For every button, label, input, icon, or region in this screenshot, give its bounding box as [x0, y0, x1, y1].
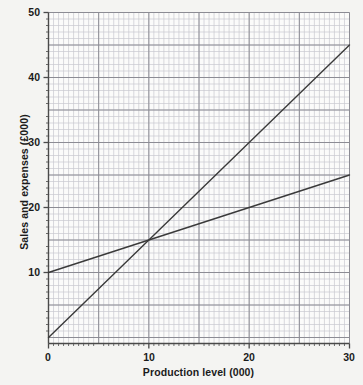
x-axis-tick-label-20: 20 [234, 351, 264, 363]
x-axis-tick-label-10: 10 [134, 351, 164, 363]
chart-figure: 50 40 30 20 10 0 10 20 30 Sales and expe… [0, 0, 363, 385]
y-axis-title: Sales and expenses (£000) [18, 102, 30, 262]
y-axis-tick-label-50: 50 [8, 6, 40, 18]
x-axis-tick-label-0: 0 [33, 351, 63, 363]
y-axis-tick-label-10: 10 [8, 266, 40, 278]
x-axis-title: Production level (000) [48, 366, 349, 378]
x-axis-tick-label-30: 30 [334, 351, 363, 363]
chart-plot-area [0, 0, 363, 385]
y-axis-tick-label-40: 40 [8, 71, 40, 83]
